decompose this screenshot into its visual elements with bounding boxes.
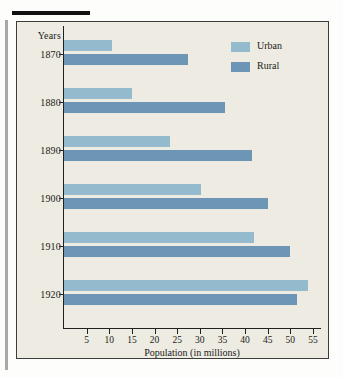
bar-urban-1890 <box>64 136 170 147</box>
legend-label-urban: Urban <box>257 40 282 51</box>
y-tick-1870 <box>59 54 63 55</box>
x-tick-25 <box>177 329 178 334</box>
bar-rural-1920 <box>64 294 297 305</box>
x-tick-label-10: 10 <box>98 335 120 345</box>
x-tick-20 <box>155 329 156 334</box>
y-tick-1880 <box>59 102 63 103</box>
x-axis-line <box>63 328 321 329</box>
x-tick-label-50: 50 <box>279 335 301 345</box>
bar-rural-1880 <box>64 102 225 113</box>
y-tick-1890 <box>59 150 63 151</box>
x-tick-15 <box>132 329 133 334</box>
x-tick-label-15: 15 <box>121 335 143 345</box>
bar-urban-1870 <box>64 40 112 51</box>
year-label-1880: 1880 <box>19 97 61 108</box>
plot-area: Years Population (in millions) Urban Rur… <box>17 22 328 358</box>
chart-frame: Years Population (in millions) Urban Rur… <box>16 21 329 359</box>
y-tick-1920 <box>59 294 63 295</box>
x-tick-label-35: 35 <box>211 335 233 345</box>
x-tick-45 <box>268 329 269 334</box>
left-edge-decoration <box>5 20 8 370</box>
x-tick-55 <box>313 329 314 334</box>
bar-urban-1920 <box>64 280 308 291</box>
bar-urban-1880 <box>64 88 132 99</box>
x-tick-50 <box>290 329 291 334</box>
year-label-1890: 1890 <box>19 145 61 156</box>
x-tick-label-25: 25 <box>166 335 188 345</box>
legend-swatch-rural <box>231 62 250 72</box>
chart-page: Years Population (in millions) Urban Rur… <box>0 0 343 378</box>
year-label-1920: 1920 <box>19 289 61 300</box>
bar-rural-1900 <box>64 198 268 209</box>
x-tick-30 <box>200 329 201 334</box>
x-tick-label-55: 55 <box>302 335 324 345</box>
bar-urban-1900 <box>64 184 201 195</box>
year-label-1910: 1910 <box>19 241 61 252</box>
years-axis-caption: Years <box>23 30 61 41</box>
x-tick-40 <box>245 329 246 334</box>
legend-swatch-urban <box>231 42 250 52</box>
year-label-1900: 1900 <box>19 193 61 204</box>
year-label-1870: 1870 <box>19 49 61 60</box>
bar-urban-1910 <box>64 232 254 243</box>
bar-rural-1870 <box>64 54 188 65</box>
x-tick-label-40: 40 <box>234 335 256 345</box>
bar-rural-1910 <box>64 246 290 257</box>
y-tick-1900 <box>59 198 63 199</box>
x-axis-title: Population (in millions) <box>63 347 321 358</box>
y-tick-1910 <box>59 246 63 247</box>
bar-rural-1890 <box>64 150 252 161</box>
x-tick-label-30: 30 <box>189 335 211 345</box>
x-tick-label-20: 20 <box>144 335 166 345</box>
x-tick-label-5: 5 <box>76 335 98 345</box>
x-tick-35 <box>222 329 223 334</box>
top-rule-decoration <box>12 11 90 15</box>
legend-label-rural: Rural <box>257 60 279 71</box>
x-tick-10 <box>109 329 110 334</box>
x-tick-label-45: 45 <box>257 335 279 345</box>
x-tick-5 <box>87 329 88 334</box>
